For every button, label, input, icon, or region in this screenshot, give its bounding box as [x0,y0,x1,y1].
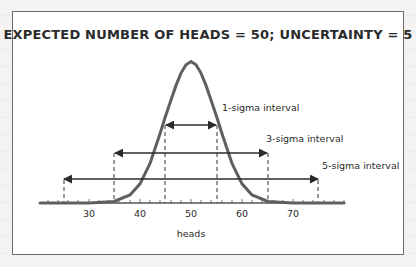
sigma3-label: 3-sigma interval [266,133,343,144]
x-tick-60: 60 [236,208,248,219]
chart-plot [0,0,416,267]
x-tick-30: 30 [83,208,95,219]
sigma5-label: 5-sigma interval [322,160,399,171]
x-tick-70: 70 [287,208,299,219]
x-tick-50: 50 [185,208,197,219]
x-tick-40: 40 [134,208,146,219]
x-axis-label: heads [177,228,206,239]
sigma1-label: 1-sigma interval [222,102,299,113]
